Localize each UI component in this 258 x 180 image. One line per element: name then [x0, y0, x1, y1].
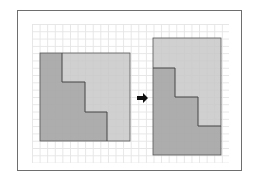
left-square-figure [40, 53, 130, 141]
right-rectangle-figure [153, 38, 221, 155]
dissection-diagram [0, 0, 258, 180]
arrow-icon [137, 93, 148, 103]
